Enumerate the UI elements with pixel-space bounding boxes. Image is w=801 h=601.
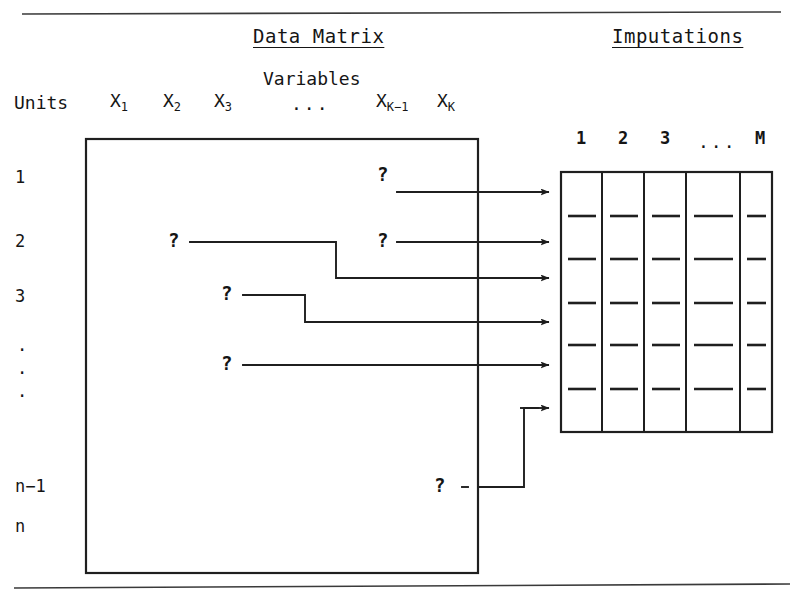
variables-label: Variables xyxy=(263,70,361,88)
variable-header-xk-1: XK−1 xyxy=(376,92,409,113)
unit-label-3: 3 xyxy=(15,288,25,305)
unit-label-n-minus-1: n−1 xyxy=(15,478,46,495)
missing-marker-unit-dots-x3: ? xyxy=(221,354,232,373)
imputation-column-header-2: 2 xyxy=(618,130,628,147)
variable-sub: K−1 xyxy=(387,100,409,114)
variable-header-x2: X2 xyxy=(163,92,181,113)
connector-unit-3 xyxy=(243,295,503,322)
imputation-column-header-1: 1 xyxy=(576,130,586,147)
unit-label-2: 2 xyxy=(15,233,25,250)
imputation-column-header-ellipsis: ... xyxy=(698,133,737,151)
variable-sub: 2 xyxy=(174,100,181,114)
unit-label-dot-1: . xyxy=(17,337,27,354)
variable-header-ellipsis: ... xyxy=(291,95,330,113)
unit-label-dot-2: . xyxy=(17,360,27,377)
variable-base: X xyxy=(376,90,387,111)
variable-base: X xyxy=(437,90,448,111)
figure-multiple-imputation-diagram: Data Matrix Imputations Variables Units … xyxy=(0,0,801,601)
missing-value-connectors xyxy=(190,192,538,487)
variable-base: X xyxy=(110,90,121,111)
units-label: Units xyxy=(14,94,68,112)
unit-label-n: n xyxy=(15,518,25,535)
connector-unit-n-1 xyxy=(478,408,538,487)
variable-header-xk: XK xyxy=(437,92,455,113)
variable-header-x3: X3 xyxy=(214,92,232,113)
imputations-table xyxy=(561,172,772,432)
missing-marker-unit-n-1-xk1: ? xyxy=(434,476,445,495)
variable-base: X xyxy=(214,90,225,111)
unit-label-dot-3: . xyxy=(17,383,27,400)
missing-marker-unit-3-x3: ? xyxy=(221,284,232,303)
variable-sub: 3 xyxy=(225,100,232,114)
data-matrix-title: Data Matrix xyxy=(253,27,384,46)
imputation-column-header-3: 3 xyxy=(660,130,670,147)
imputation-column-header-m: M xyxy=(755,130,765,147)
imputations-value-dashes xyxy=(568,216,766,389)
connector-unit-2-x2 xyxy=(190,242,503,278)
imputations-title: Imputations xyxy=(612,27,743,46)
variable-sub: K xyxy=(448,100,455,114)
data-matrix-box xyxy=(86,139,478,573)
variable-sub: 1 xyxy=(121,100,128,114)
missing-marker-unit-2-xk1: ? xyxy=(377,231,388,250)
missing-marker-unit-1-xk1: ? xyxy=(377,165,388,184)
missing-marker-unit-2-x2: ? xyxy=(168,231,179,250)
imputation-arrows xyxy=(490,192,549,408)
variable-header-x1: X1 xyxy=(110,92,128,113)
unit-label-1: 1 xyxy=(15,169,25,186)
variable-base: X xyxy=(163,90,174,111)
